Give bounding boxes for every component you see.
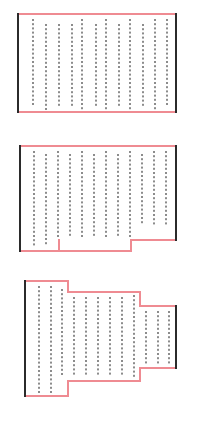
mesh-dot <box>97 356 99 358</box>
mesh-dot <box>168 324 170 326</box>
mesh-dot <box>50 286 52 288</box>
mesh-dot <box>133 362 135 364</box>
mesh-dot <box>168 315 170 317</box>
mesh-dot <box>85 339 87 341</box>
mesh-dot <box>109 347 111 349</box>
mesh-dot <box>61 297 63 299</box>
mesh-dot <box>121 326 123 328</box>
mesh-dot <box>73 364 75 366</box>
mesh-dot <box>38 328 40 330</box>
mesh-dot <box>157 336 159 338</box>
mesh-dot <box>145 361 147 363</box>
mesh-dot <box>61 318 63 320</box>
mesh-dot <box>133 350 135 352</box>
mesh-dot <box>145 353 147 355</box>
mesh-dot <box>157 361 159 363</box>
mesh-dot <box>133 320 135 322</box>
mesh-dot <box>109 301 111 303</box>
mesh-dot <box>145 345 147 347</box>
mesh-dot <box>109 322 111 324</box>
mesh-dot <box>121 301 123 303</box>
mesh-dot <box>97 314 99 316</box>
mesh-dot <box>85 314 87 316</box>
mesh-dot <box>61 373 63 375</box>
mesh-dot <box>121 347 123 349</box>
mesh-dot <box>50 294 52 296</box>
mesh-dot <box>61 289 63 291</box>
mesh-dot <box>145 357 147 359</box>
mesh-dot <box>50 332 52 334</box>
mesh-dot <box>50 315 52 317</box>
mesh-dot <box>38 307 40 309</box>
mesh-dot <box>50 299 52 301</box>
mesh-dot <box>50 328 52 330</box>
mesh-dot <box>85 343 87 345</box>
mesh-dot <box>168 357 170 359</box>
mesh-dot <box>85 364 87 366</box>
mesh-dot <box>97 368 99 370</box>
mesh-dot <box>50 387 52 389</box>
figure-canvas <box>0 0 197 421</box>
mesh-dot <box>121 368 123 370</box>
mesh-dot <box>73 322 75 324</box>
mesh-dot <box>133 333 135 335</box>
mesh-dot <box>38 378 40 380</box>
mesh-dot <box>85 331 87 333</box>
mesh-dot <box>61 306 63 308</box>
mesh-dot <box>38 374 40 376</box>
mesh-dot <box>73 352 75 354</box>
mesh-dot <box>157 328 159 330</box>
mesh-dot <box>157 340 159 342</box>
mesh-dot <box>61 310 63 312</box>
mesh-dot <box>50 349 52 351</box>
mesh-dot <box>38 391 40 393</box>
mesh-dot <box>50 391 52 393</box>
mesh-dot <box>145 311 147 313</box>
mesh-dot <box>61 335 63 337</box>
panel-3-side-edges <box>25 281 176 396</box>
mesh-dot <box>50 383 52 385</box>
mesh-dot <box>109 310 111 312</box>
mesh-dot <box>38 294 40 296</box>
mesh-dot <box>97 322 99 324</box>
mesh-dot <box>133 299 135 301</box>
mesh-dot <box>168 336 170 338</box>
mesh-dot <box>133 341 135 343</box>
mesh-dot <box>73 373 75 375</box>
mesh-dot <box>109 314 111 316</box>
mesh-dot <box>145 349 147 351</box>
mesh-dot <box>121 297 123 299</box>
mesh-dot <box>85 373 87 375</box>
mesh-dot <box>85 356 87 358</box>
mesh-dot <box>97 318 99 320</box>
mesh-dot <box>121 305 123 307</box>
mesh-dot <box>121 360 123 362</box>
mesh-dot <box>73 314 75 316</box>
mesh-dot <box>61 323 63 325</box>
mesh-dot <box>133 324 135 326</box>
mesh-dot <box>38 370 40 372</box>
mesh-dot <box>38 286 40 288</box>
mesh-dot <box>73 335 75 337</box>
mesh-dot <box>157 315 159 317</box>
mesh-dot <box>157 349 159 351</box>
mesh-dot <box>73 339 75 341</box>
mesh-dot <box>61 293 63 295</box>
mesh-dot <box>50 357 52 359</box>
mesh-dot <box>61 344 63 346</box>
mesh-dot <box>121 335 123 337</box>
mesh-dot <box>121 331 123 333</box>
mesh-dot <box>85 305 87 307</box>
mesh-dot <box>157 311 159 313</box>
mesh-dot <box>61 314 63 316</box>
mesh-dot <box>38 345 40 347</box>
mesh-dot <box>168 349 170 351</box>
mesh-dot <box>85 318 87 320</box>
mesh-dot <box>85 360 87 362</box>
mesh-dot <box>121 373 123 375</box>
mesh-dot <box>50 345 52 347</box>
mesh-dot <box>97 301 99 303</box>
mesh-dot <box>109 326 111 328</box>
mesh-dot <box>38 353 40 355</box>
mesh-dot <box>73 347 75 349</box>
